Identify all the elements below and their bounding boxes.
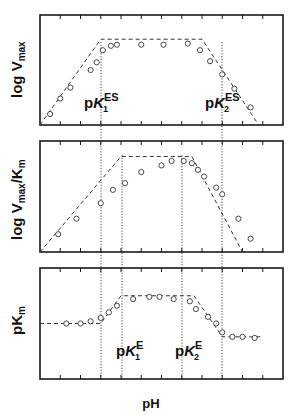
data-point	[114, 303, 119, 308]
data-point	[139, 42, 144, 47]
pk1e-label: pK1E	[116, 339, 143, 362]
data-point	[214, 185, 219, 190]
data-point	[208, 59, 213, 64]
data-point	[64, 321, 69, 326]
data-point	[114, 42, 119, 47]
data-point	[220, 192, 225, 197]
data-point	[197, 48, 202, 53]
data-point	[189, 161, 194, 166]
data-point	[161, 42, 166, 47]
data-point	[131, 296, 136, 301]
data-point	[171, 296, 176, 301]
data-point	[139, 169, 144, 174]
panel-middle-frame	[40, 141, 283, 252]
data-point	[230, 334, 235, 339]
data-point	[98, 201, 103, 206]
data-point	[205, 314, 210, 319]
x-axis-label: pH	[142, 396, 159, 411]
data-point	[195, 167, 200, 172]
data-point	[220, 330, 225, 335]
pk2es-label: pK2ES	[205, 91, 240, 114]
data-point	[185, 41, 190, 46]
data-point	[78, 321, 83, 326]
data-point	[88, 319, 93, 324]
data-point	[240, 334, 245, 339]
data-point	[157, 294, 162, 299]
fit-lines	[40, 39, 263, 337]
bottom-fit-line	[40, 296, 263, 337]
pk1es-label: pK1ES	[84, 91, 119, 114]
data-point	[236, 216, 241, 221]
data-point	[110, 187, 115, 192]
data-point	[193, 306, 198, 311]
top-ylabel: log Vmax	[8, 41, 27, 98]
data-point	[48, 111, 53, 116]
data-point	[100, 48, 105, 53]
data-point	[187, 299, 192, 304]
data-point	[220, 72, 225, 77]
data-point	[214, 321, 219, 326]
pk2e-label: pK2E	[175, 339, 202, 362]
data-point	[94, 60, 99, 65]
data-point	[98, 315, 103, 320]
data-point	[201, 174, 206, 179]
data-point	[169, 158, 174, 163]
data-point	[159, 163, 164, 168]
panel-top-frame	[40, 15, 283, 125]
data-point	[74, 216, 79, 221]
data-point	[252, 335, 257, 340]
data-point	[181, 158, 186, 163]
data-point	[248, 105, 253, 110]
chart-canvas: log Vmax log Vmax/Km pKm pK1ES pK2ES pK1…	[0, 0, 299, 415]
reference-lines	[101, 42, 222, 380]
data-point	[108, 43, 113, 48]
data-point	[88, 67, 93, 72]
data-point	[58, 96, 63, 101]
ph-profile-figure: log Vmax log Vmax/Km pKm pK1ES pK2ES pK1…	[0, 0, 299, 415]
data-point	[68, 85, 73, 90]
data-point	[122, 181, 127, 186]
middle-ylabel: log Vmax/Km	[8, 159, 27, 240]
data-point	[106, 310, 111, 315]
data-point	[147, 294, 152, 299]
data-point	[248, 236, 253, 241]
bottom-ylabel: pKm	[8, 306, 27, 335]
data-point	[56, 232, 61, 237]
